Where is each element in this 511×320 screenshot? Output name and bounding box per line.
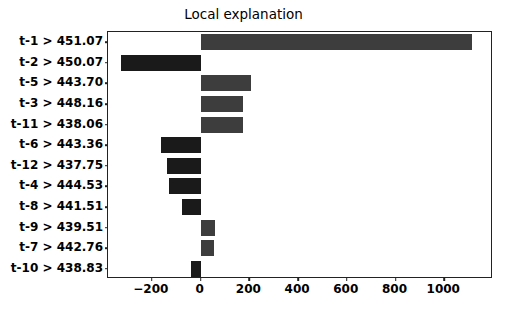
bar [161,137,201,153]
y-tick-label: t-9 > 439.51 [4,220,107,234]
x-tick-mark [443,277,445,281]
bar-series [108,32,491,277]
bar [191,261,201,277]
bar-row [108,114,491,135]
y-tick-label: t-2 > 450.07 [4,55,107,69]
x-tick-label: 200 [236,282,261,296]
bar [167,158,201,174]
x-tick-mark [200,277,202,281]
bar-row [108,238,491,259]
y-tick-mark [105,144,109,146]
bar [201,96,244,112]
y-tick-mark [105,124,109,126]
y-tick-label: t-6 > 443.36 [4,137,107,151]
x-tick-mark [346,277,348,281]
x-tick-label: 600 [333,282,358,296]
bar [201,220,216,236]
y-tick-mark [105,165,109,167]
y-tick-mark [105,247,109,249]
x-tick-mark [395,277,397,281]
y-tick-mark [105,206,109,208]
y-tick-label: t-11 > 438.06 [4,117,107,131]
bar [201,240,215,256]
y-tick-mark [105,103,109,105]
bar [201,75,251,91]
y-tick-label: t-3 > 448.16 [4,96,107,110]
x-tick-label: 400 [285,282,310,296]
y-tick-label: t-12 > 437.75 [4,158,107,172]
y-tick-mark [105,41,109,43]
y-tick-label: t-1 > 451.07 [4,34,107,48]
bar-row [108,135,491,156]
bar-row [108,156,491,177]
y-tick-label: t-4 > 444.53 [4,178,107,192]
x-tick-label: 800 [382,282,407,296]
x-tick-label: 1000 [427,282,460,296]
x-tick-label: −200 [133,282,168,296]
bar-row [108,94,491,115]
plot-area [107,31,492,278]
y-tick-mark [105,268,109,270]
y-tick-label: t-8 > 441.51 [4,199,107,213]
y-axis-labels: t-1 > 451.07t-2 > 450.07t-5 > 443.70t-3 … [0,31,107,278]
bar [169,178,201,194]
x-tick-mark [249,277,251,281]
y-tick-mark [105,186,109,188]
y-tick-label: t-5 > 443.70 [4,75,107,89]
bar-row [108,73,491,94]
bar-row [108,32,491,53]
bar-row [108,53,491,74]
local-explanation-chart: Local explanation t-1 > 451.07t-2 > 450.… [0,0,511,320]
bar [201,117,243,133]
bar-row [108,197,491,218]
y-tick-label: t-7 > 442.76 [4,240,107,254]
bar-row [108,217,491,238]
y-tick-label: t-10 > 438.83 [4,261,107,275]
bar [182,199,201,215]
x-tick-mark [297,277,299,281]
chart-title: Local explanation [0,6,511,22]
y-tick-mark [105,227,109,229]
bar-row [108,176,491,197]
x-axis-labels: −20002004006008001000 [107,282,492,302]
bar [121,55,201,71]
chart-title-text: Local explanation [184,6,303,22]
y-tick-mark [105,83,109,85]
y-tick-mark [105,62,109,64]
x-tick-mark [151,277,153,281]
x-tick-label: 0 [195,282,203,296]
bar [201,34,473,50]
bar-row [108,258,491,279]
